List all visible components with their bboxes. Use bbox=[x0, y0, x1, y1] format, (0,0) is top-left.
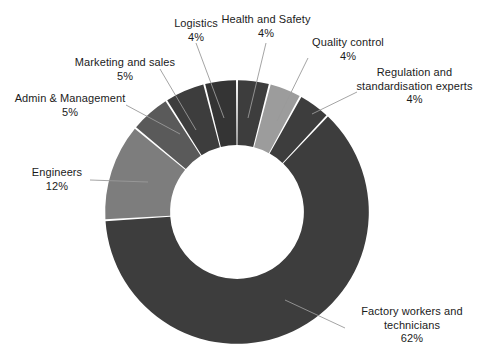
label-factory-workers-percent: 62% bbox=[348, 332, 476, 346]
label-regulation-name-line2: standardisation experts bbox=[346, 80, 483, 94]
label-marketing-and-sales: Marketing and sales 5% bbox=[66, 56, 184, 83]
label-regulation-name-line1: Regulation and bbox=[346, 66, 483, 80]
label-quality-control-name: Quality control bbox=[300, 36, 396, 50]
label-factory-workers-and-technicians: Factory workers and technicians 62% bbox=[348, 305, 476, 346]
label-quality-control-percent: 4% bbox=[300, 50, 396, 64]
label-engineers-percent: 12% bbox=[22, 180, 92, 194]
label-engineers: Engineers 12% bbox=[22, 166, 92, 193]
label-admin-and-management-name: Admin & Management bbox=[8, 92, 132, 106]
label-regulation-percent: 4% bbox=[346, 93, 483, 107]
label-quality-control: Quality control 4% bbox=[300, 36, 396, 63]
label-marketing-and-sales-name: Marketing and sales bbox=[66, 56, 184, 70]
label-admin-and-management: Admin & Management 5% bbox=[8, 92, 132, 119]
label-regulation-and-standardisation-experts: Regulation and standardisation experts 4… bbox=[346, 66, 483, 107]
donut-slices bbox=[105, 80, 369, 344]
label-marketing-and-sales-percent: 5% bbox=[66, 70, 184, 84]
label-factory-workers-name-line1: Factory workers and bbox=[348, 305, 476, 319]
label-admin-and-management-percent: 5% bbox=[8, 106, 132, 120]
donut-chart: Logistics 4% Health and Safety 4% Qualit… bbox=[0, 0, 483, 363]
label-engineers-name: Engineers bbox=[22, 166, 92, 180]
label-health-and-safety-name: Health and Safety bbox=[211, 13, 321, 27]
label-factory-workers-name-line2: technicians bbox=[348, 319, 476, 333]
